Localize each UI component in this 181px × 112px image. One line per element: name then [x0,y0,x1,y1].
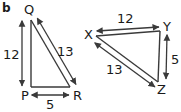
dimension-arrow-xz [95,43,155,87]
segment-yz [158,31,160,82]
triangle-xyz-dimension-arrows [95,27,167,87]
dimension-arrow-yz [166,35,167,79]
measure-label-qr-13: 13 [57,45,74,58]
measure-label-xy-12: 12 [117,12,134,25]
vertex-label-r: R [73,89,82,102]
vertex-label-z: Z [157,83,166,96]
vertex-label-p: P [21,89,29,102]
measure-label-pr-5: 5 [46,98,54,111]
vertex-label-y: Y [163,20,171,33]
vertex-label-x: X [84,28,93,41]
measure-label-xz-13: 13 [106,63,123,76]
geometry-figure: b Q P R 12 13 5 X Y Z 12 13 5 [0,0,181,112]
dimension-arrow-xy [97,27,159,31]
measure-label-pq-12: 12 [3,48,20,61]
segment-xy [96,31,160,36]
vertex-label-q: Q [24,3,34,16]
panel-letter-b: b [2,2,11,14]
measure-label-yz-5: 5 [171,53,179,66]
